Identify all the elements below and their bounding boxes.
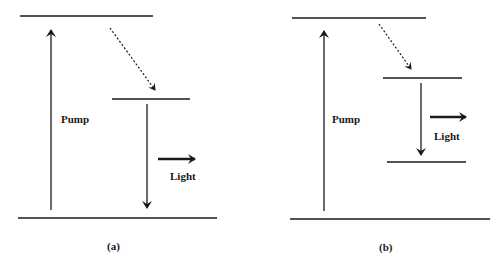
nonradiative-decay-arrow-icon xyxy=(110,28,155,90)
light-label: Light xyxy=(434,130,460,142)
caption-a: (a) xyxy=(107,240,120,253)
energy-level-diagrams: Pump Light (a) Pump Light (b) xyxy=(0,0,495,269)
caption-b: (b) xyxy=(379,241,393,254)
light-label: Light xyxy=(170,170,196,182)
pump-label: Pump xyxy=(61,113,89,125)
diagram-b: Pump Light (b) xyxy=(290,18,490,254)
pump-label: Pump xyxy=(332,113,360,125)
diagram-a: Pump Light (a) xyxy=(18,16,217,253)
nonradiative-decay-arrow-icon xyxy=(379,24,411,69)
